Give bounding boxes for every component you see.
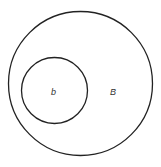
outer-set-circle [9, 12, 153, 156]
outer-set-label: B [110, 87, 116, 97]
set-diagram: b B [0, 0, 161, 167]
inner-set-label: b [51, 87, 56, 97]
